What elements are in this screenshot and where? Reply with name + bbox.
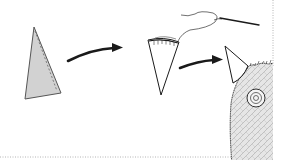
triangle-fabric-icon bbox=[25, 27, 61, 99]
diagram-svg bbox=[0, 0, 288, 164]
arrow-right-icon bbox=[68, 43, 123, 61]
arrow-right-icon bbox=[180, 55, 223, 68]
instruction-diagram bbox=[0, 0, 288, 164]
cone-gathered-icon bbox=[148, 37, 179, 95]
needle-thread-icon bbox=[178, 12, 259, 41]
eye-icon bbox=[247, 89, 265, 107]
